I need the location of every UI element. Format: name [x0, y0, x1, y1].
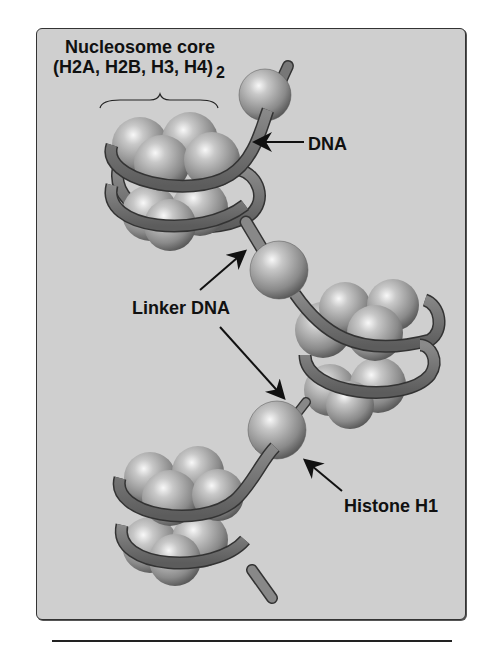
subscript-2: 2: [216, 64, 225, 81]
nucleosome-core-title: Nucleosome core (H2A, H2B, H3, H4)2: [53, 37, 225, 78]
linker-dna-arrow-upper: [200, 252, 244, 290]
histone-list: (H2A, H2B, H3, H4): [53, 57, 213, 77]
nucleosome-core-2: [295, 279, 439, 429]
histone-h1-label: Histone H1: [344, 496, 438, 516]
histone-composition-label: (H2A, H2B, H3, H4)2: [53, 57, 225, 78]
nucleosome-core-3: [119, 446, 275, 598]
histone-h1-arrow: [306, 461, 342, 491]
histone-h1-sphere-middle: [250, 241, 308, 299]
nucleosome-illustration: [0, 0, 493, 656]
nucleosome-core-label: Nucleosome core: [53, 37, 225, 57]
linker-dna-label: Linker DNA: [132, 298, 230, 318]
bottom-divider: [52, 640, 452, 642]
nucleosome-core-brace: [100, 94, 218, 108]
dna-label: DNA: [308, 134, 347, 154]
linker-dna-arrow-lower: [220, 327, 283, 397]
